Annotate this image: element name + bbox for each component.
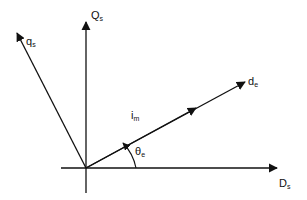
phasor-diagram — [0, 0, 307, 200]
im-vector-label: im — [131, 110, 139, 122]
im-vector — [86, 108, 196, 168]
de-vector-label: de — [248, 76, 258, 88]
qs-axis-label: Qs — [91, 10, 103, 22]
theta-angle-label: θe — [135, 146, 145, 158]
qs-vector — [17, 33, 86, 168]
qs-vector-label: qs — [26, 36, 36, 48]
ds-axis-label: Ds — [279, 178, 290, 190]
